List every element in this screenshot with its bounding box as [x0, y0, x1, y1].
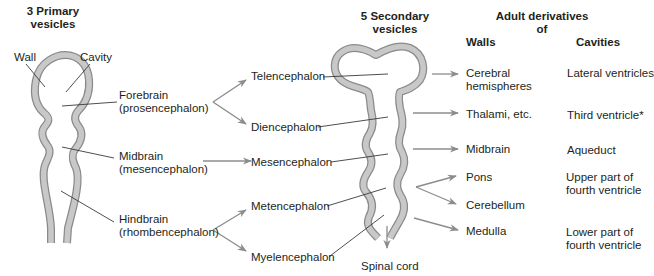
- primary-vesicle-tube: [35, 55, 89, 243]
- mesencephalon-label: Mesencephalon: [251, 156, 332, 169]
- thalami-label: Thalami, etc.: [466, 108, 532, 121]
- metencephalon-label: Metencephalon: [251, 200, 330, 213]
- forebrain-label: Forebrain (prosencephalon): [119, 89, 209, 115]
- myelencephalon-label: Myelencephalon: [251, 251, 335, 264]
- secondary-vesicle-tube: [335, 46, 423, 238]
- secondary-to-walls-arrows: [413, 74, 458, 230]
- brain-vesicles-diagram: 3 Primary vesicles 5 Secondary vesicles …: [0, 0, 654, 276]
- upper-fourth-ventricle-label: Upper part of fourth ventricle: [566, 171, 641, 197]
- diagram-artwork: [0, 0, 654, 276]
- telencephalon-label: Telencephalon: [251, 70, 325, 83]
- walls-column-header: Walls: [466, 36, 496, 49]
- pons-label: Pons: [466, 171, 492, 184]
- cavities-column-header: Cavities: [576, 36, 620, 49]
- third-ventricle-label: Third ventricle*: [567, 109, 644, 122]
- cerebellum-label: Cerebellum: [466, 199, 525, 212]
- spinal-cord-label: Spinal cord: [361, 260, 419, 273]
- cerebral-hemispheres-label: Cerebral hemispheres: [466, 67, 532, 93]
- lateral-ventricles-label: Lateral ventricles: [567, 67, 654, 80]
- diencephalon-label: Diencephalon: [251, 121, 321, 134]
- medulla-label: Medulla: [466, 225, 506, 238]
- primary-vesicles-header: 3 Primary vesicles: [18, 5, 88, 31]
- midbrain-label: Midbrain (mesencephalon): [119, 150, 208, 176]
- wall-label: Wall: [14, 51, 36, 64]
- adult-derivatives-header: Adult derivatives of: [487, 10, 597, 36]
- hindbrain-label: Hindbrain (rhombencephalon): [119, 213, 219, 239]
- midbrain-wall-label: Midbrain: [466, 143, 510, 156]
- cavity-label: Cavity: [80, 51, 112, 64]
- aqueduct-label: Aqueduct: [567, 144, 616, 157]
- lower-fourth-ventricle-label: Lower part of fourth ventricle: [566, 226, 641, 252]
- secondary-vesicles-header: 5 Secondary vesicles: [350, 10, 440, 36]
